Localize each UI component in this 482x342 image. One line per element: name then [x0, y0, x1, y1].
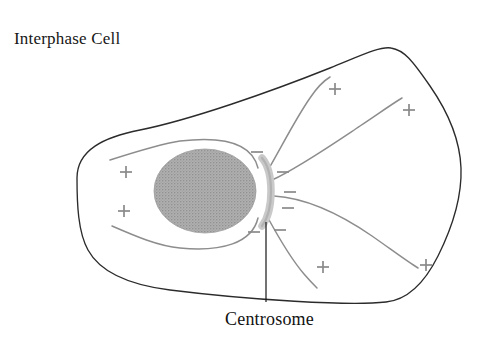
- centrosome-label: Centrosome: [225, 309, 314, 329]
- interphase-cell-diagram: Interphase Cell Centrosome: [0, 0, 482, 342]
- figure-canvas: Interphase Cell Centrosome: [0, 0, 482, 342]
- nucleus: [154, 149, 256, 233]
- figure-title: Interphase Cell: [14, 29, 120, 48]
